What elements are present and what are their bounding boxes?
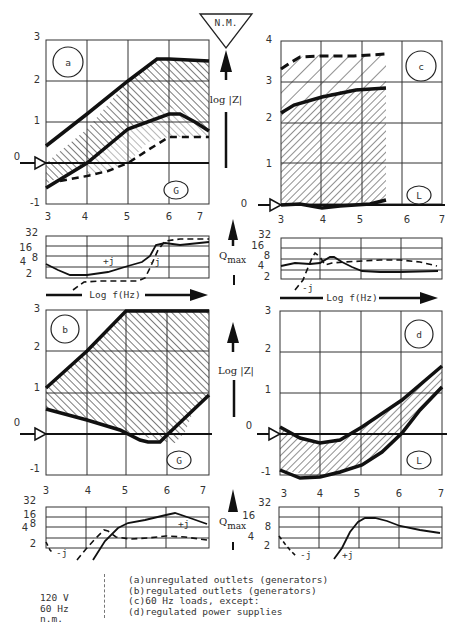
svg-text:8: 8 bbox=[265, 521, 271, 532]
svg-text:5: 5 bbox=[122, 485, 128, 496]
svg-text:16: 16 bbox=[19, 242, 32, 253]
legend-item-d: (d)regulated power supplies bbox=[128, 607, 328, 618]
arrow-up-icon bbox=[228, 489, 238, 512]
svg-text:4: 4 bbox=[266, 34, 272, 45]
svg-text:1: 1 bbox=[34, 382, 40, 393]
svg-text:-1: -1 bbox=[30, 463, 40, 474]
log-f-label-left: Log f(Hz) bbox=[89, 289, 140, 300]
svg-text:4: 4 bbox=[20, 256, 26, 267]
svg-text:2: 2 bbox=[265, 343, 271, 354]
svg-text:8: 8 bbox=[264, 250, 270, 261]
svg-text:32: 32 bbox=[25, 227, 38, 238]
svg-text:+j: +j bbox=[178, 518, 189, 529]
svg-text:6: 6 bbox=[396, 488, 402, 499]
svg-text:2: 2 bbox=[26, 268, 32, 279]
condition-mode: n.m. bbox=[40, 614, 69, 625]
qmax-strip-d: 3 4 5 6 7 -j +j 32 16 8 4 2 bbox=[242, 488, 444, 560]
zero-marker-icon bbox=[35, 428, 46, 440]
log-f-axis-right: Log f(Hz) bbox=[280, 292, 438, 304]
svg-text:4: 4 bbox=[85, 485, 91, 496]
svg-text:4: 4 bbox=[317, 488, 323, 499]
svg-text:6: 6 bbox=[166, 211, 172, 222]
plot-c-title: c bbox=[418, 61, 424, 72]
plot-a-title: a bbox=[65, 57, 71, 68]
svg-text:+j: +j bbox=[342, 549, 353, 560]
svg-text:4: 4 bbox=[22, 522, 28, 533]
legend-item-c: (c)60 Hz loads, except: bbox=[128, 596, 328, 607]
arrow-right-icon bbox=[190, 289, 208, 301]
svg-text:1: 1 bbox=[265, 384, 271, 395]
legend-item-a: (a)unregulated outlets (generators) bbox=[128, 575, 328, 586]
svg-text:+j: +j bbox=[103, 255, 114, 266]
svg-text:0: 0 bbox=[241, 198, 247, 209]
svg-text:3: 3 bbox=[281, 488, 287, 499]
figure: N.M. log |Z| Qmax Log |Z| Qmax bbox=[0, 0, 462, 635]
log-z-label-bottom: Log |Z| bbox=[218, 365, 254, 377]
svg-text:3: 3 bbox=[34, 31, 40, 42]
svg-text:0: 0 bbox=[14, 417, 20, 428]
zero-marker-icon bbox=[35, 157, 46, 169]
svg-text:6: 6 bbox=[404, 214, 410, 225]
svg-text:2: 2 bbox=[30, 538, 36, 549]
svg-text:8: 8 bbox=[30, 518, 36, 529]
svg-text:2: 2 bbox=[266, 112, 272, 123]
plot-b: b G 3 2 1 0 -1 3 4 5 6 7 bbox=[14, 303, 212, 496]
svg-text:-1: -1 bbox=[30, 197, 40, 208]
qmax-strip-b: +j -j 32 16 8 4 2 bbox=[22, 495, 209, 560]
legend-brace bbox=[104, 574, 109, 618]
plot-a: a G 3 2 1 0 -1 3 4 5 6 7 bbox=[14, 31, 209, 222]
svg-text:3: 3 bbox=[43, 485, 49, 496]
svg-text:2: 2 bbox=[264, 540, 270, 551]
plot-c: c L 4 3 2 1 0 3 4 5 6 7 bbox=[241, 34, 446, 225]
svg-text:5: 5 bbox=[357, 214, 363, 225]
plot-c-tag: L bbox=[416, 190, 422, 201]
svg-text:32: 32 bbox=[23, 495, 36, 506]
svg-text:-j: -j bbox=[56, 547, 67, 558]
svg-text:3: 3 bbox=[34, 303, 40, 314]
svg-text:16: 16 bbox=[251, 240, 264, 251]
arrow-right-icon bbox=[420, 292, 438, 304]
svg-text:3: 3 bbox=[265, 305, 271, 316]
log-f-axis-left: Log f(Hz) bbox=[46, 289, 208, 301]
svg-text:5: 5 bbox=[354, 488, 360, 499]
svg-text:4: 4 bbox=[248, 531, 254, 542]
svg-text:2: 2 bbox=[34, 74, 40, 85]
svg-text:1: 1 bbox=[266, 158, 272, 169]
arrow-up-icon bbox=[220, 50, 232, 72]
plot-d-title: d bbox=[416, 329, 422, 340]
arrow-up-icon bbox=[228, 219, 238, 240]
svg-text:16: 16 bbox=[242, 510, 255, 521]
plot-d-tag: L bbox=[416, 455, 422, 466]
svg-text:32: 32 bbox=[258, 497, 271, 508]
log-z-label-top: log |Z| bbox=[210, 94, 243, 106]
log-f-label-right: Log f(Hz) bbox=[326, 292, 377, 303]
svg-text:4: 4 bbox=[258, 260, 264, 271]
svg-text:0: 0 bbox=[246, 420, 252, 431]
svg-text:2: 2 bbox=[34, 341, 40, 352]
svg-text:-1: -1 bbox=[261, 466, 271, 477]
svg-text:1: 1 bbox=[34, 115, 40, 126]
svg-text:32: 32 bbox=[258, 229, 271, 240]
nm-badge-label: N.M. bbox=[215, 17, 238, 28]
qmax-axis-top: Qmax bbox=[219, 219, 246, 285]
zero-marker-icon bbox=[269, 428, 280, 440]
arrow-up-icon bbox=[227, 322, 239, 343]
svg-text:7: 7 bbox=[439, 214, 445, 225]
svg-text:2: 2 bbox=[264, 271, 270, 282]
legend: (a)unregulated outlets (generators) (b)r… bbox=[128, 575, 328, 617]
qmax-label-top: Qmax bbox=[219, 250, 246, 265]
svg-text:3: 3 bbox=[45, 211, 51, 222]
plot-a-tag: G bbox=[173, 185, 179, 196]
plot-d: d L 3 2 1 0 -1 bbox=[246, 305, 447, 478]
zero-marker-icon bbox=[270, 199, 281, 211]
svg-text:6: 6 bbox=[164, 485, 170, 496]
svg-text:4: 4 bbox=[82, 211, 88, 222]
svg-text:8: 8 bbox=[32, 252, 38, 263]
svg-text:3: 3 bbox=[266, 75, 272, 86]
svg-text:3: 3 bbox=[278, 214, 284, 225]
svg-text:0: 0 bbox=[14, 151, 20, 162]
svg-text:-j: -j bbox=[300, 549, 311, 560]
svg-text:-j: -j bbox=[302, 282, 313, 293]
qmax-strip-c: -j 32 16 8 4 2 bbox=[251, 229, 442, 293]
svg-text:-j: -j bbox=[149, 256, 160, 267]
